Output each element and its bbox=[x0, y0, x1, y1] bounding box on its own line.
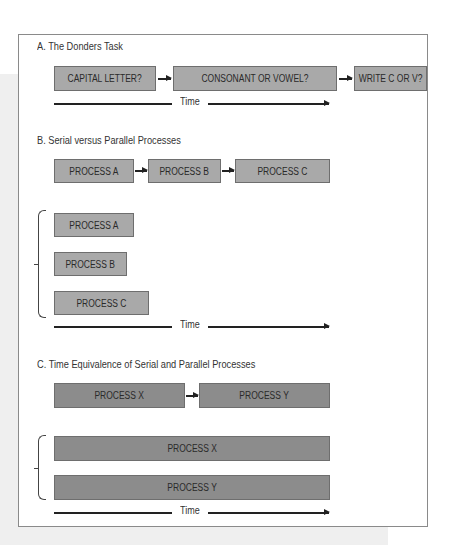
parallel-brace-icon bbox=[38, 210, 46, 318]
time-arrow-icon bbox=[208, 326, 329, 328]
section-a-title: A. The Donders Task bbox=[37, 40, 123, 52]
time-label: Time bbox=[180, 96, 200, 107]
parallel-process-x: PROCESS X bbox=[54, 436, 330, 461]
parallel-process-b: PROCESS B bbox=[54, 252, 127, 276]
serial-process-c: PROCESS C bbox=[235, 159, 330, 183]
serial-process-x: PROCESS X bbox=[54, 383, 185, 408]
step-write-c-or-v: WRITE C OR V? bbox=[354, 66, 427, 91]
step-consonant-or-vowel: CONSONANT OR VOWEL? bbox=[173, 66, 337, 91]
time-label: Time bbox=[180, 505, 200, 516]
arrow-icon bbox=[158, 78, 171, 80]
arrow-icon bbox=[339, 78, 352, 80]
parallel-process-y: PROCESS Y bbox=[54, 475, 330, 500]
arrow-icon bbox=[222, 170, 234, 172]
parallel-process-a: PROCESS A bbox=[54, 213, 134, 237]
section-c-title: C. Time Equivalence of Serial and Parall… bbox=[37, 358, 255, 370]
serial-process-b: PROCESS B bbox=[148, 159, 221, 183]
parallel-process-c: PROCESS C bbox=[54, 291, 149, 315]
time-label: Time bbox=[180, 319, 200, 330]
parallel-brace-icon bbox=[38, 435, 46, 500]
time-arrow-icon bbox=[208, 103, 329, 105]
serial-process-y: PROCESS Y bbox=[199, 383, 330, 408]
time-arrow-icon bbox=[208, 512, 329, 514]
time-axis-line bbox=[54, 326, 172, 328]
time-axis-line bbox=[54, 512, 172, 514]
time-axis-line bbox=[54, 103, 172, 105]
section-b-title: B. Serial versus Parallel Processes bbox=[37, 134, 181, 146]
arrow-icon bbox=[186, 395, 198, 397]
background-panel-bottom bbox=[18, 527, 388, 545]
background-panel-left bbox=[0, 74, 18, 545]
arrow-icon bbox=[135, 170, 147, 172]
step-capital-letter: CAPITAL LETTER? bbox=[54, 66, 156, 91]
serial-process-a: PROCESS A bbox=[54, 159, 134, 183]
